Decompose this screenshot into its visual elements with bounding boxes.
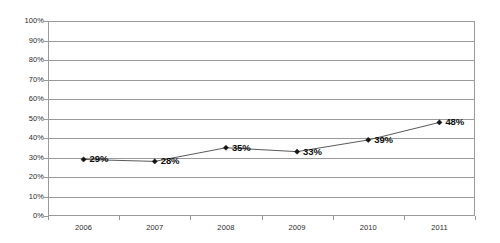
y-axis-tick <box>44 41 48 42</box>
y-axis-tick <box>44 197 48 198</box>
gridline <box>49 158 474 159</box>
gridline <box>49 119 474 120</box>
y-axis-tick-label: 70% <box>0 76 44 84</box>
x-axis-tick <box>475 216 476 220</box>
x-axis-tick-label: 2008 <box>190 223 261 232</box>
y-axis-tick-label: 50% <box>0 115 44 123</box>
x-axis-tick <box>404 216 405 220</box>
x-axis-tick-label: 2009 <box>262 223 333 232</box>
y-axis-tick <box>44 119 48 120</box>
x-axis-tick <box>119 216 120 220</box>
y-axis: 100%90%80%70%60%50%40%30%20%10%0% <box>0 0 44 243</box>
x-axis-tick-label: 2007 <box>119 223 190 232</box>
y-axis-tick-label: 0% <box>0 212 44 220</box>
gridline <box>49 138 474 139</box>
line-chart: 100%90%80%70%60%50%40%30%20%10%0% 200620… <box>0 0 500 243</box>
y-axis-tick <box>44 177 48 178</box>
gridline <box>49 41 474 42</box>
y-axis-tick-label: 90% <box>0 37 44 45</box>
x-axis-tick <box>190 216 191 220</box>
data-point-label: 48% <box>445 117 464 127</box>
data-point-label: 39% <box>374 135 393 145</box>
y-axis-tick-label: 80% <box>0 56 44 64</box>
data-point-label: 28% <box>161 156 180 166</box>
y-axis-tick <box>44 138 48 139</box>
y-axis-tick-label: 40% <box>0 134 44 142</box>
x-axis-tick-label: 2006 <box>48 223 119 232</box>
gridline <box>49 177 474 178</box>
gridline <box>49 197 474 198</box>
y-axis-tick <box>44 158 48 159</box>
data-point-label: 33% <box>303 147 322 157</box>
x-axis-tick <box>48 216 49 220</box>
data-point-label: 35% <box>232 143 251 153</box>
x-axis-tick <box>333 216 334 220</box>
x-axis-tick-label: 2010 <box>333 223 404 232</box>
gridline <box>49 99 474 100</box>
y-axis-tick <box>44 21 48 22</box>
gridline <box>49 80 474 81</box>
y-axis-tick-label: 20% <box>0 173 44 181</box>
data-point-label: 29% <box>90 154 109 164</box>
plot-area <box>48 21 475 216</box>
x-axis-tick <box>262 216 263 220</box>
y-axis-tick-label: 100% <box>0 17 44 25</box>
gridline <box>49 60 474 61</box>
y-axis-tick-label: 60% <box>0 95 44 103</box>
y-axis-tick <box>44 60 48 61</box>
x-axis-tick-label: 2011 <box>404 223 475 232</box>
y-axis-tick <box>44 99 48 100</box>
y-axis-tick-label: 30% <box>0 154 44 162</box>
y-axis-tick <box>44 80 48 81</box>
y-axis-tick-label: 10% <box>0 193 44 201</box>
